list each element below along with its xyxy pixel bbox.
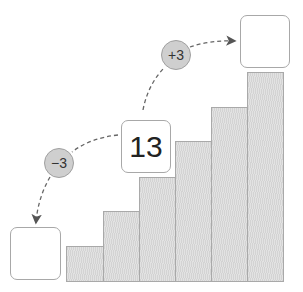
center-number: 13 [129,130,162,164]
arrow-center-to-minus [72,135,118,152]
minus-three-label: −3 [51,155,67,171]
minus-three-badge: −3 [44,148,74,178]
center-number-box: 13 [121,120,171,173]
bar-5 [211,107,248,282]
bar-3 [139,177,176,282]
right-answer-box[interactable] [240,15,290,68]
bar-6 [247,72,284,282]
bar-2 [103,211,140,282]
bar-4 [175,141,212,282]
arrow-plus-to-right [190,41,234,47]
bar-1 [66,246,104,282]
arrow-minus-to-left [36,177,50,222]
left-answer-box[interactable] [10,227,61,280]
arrow-center-to-plus [143,67,165,110]
plus-three-label: +3 [168,47,184,63]
plus-three-badge: +3 [161,40,191,70]
